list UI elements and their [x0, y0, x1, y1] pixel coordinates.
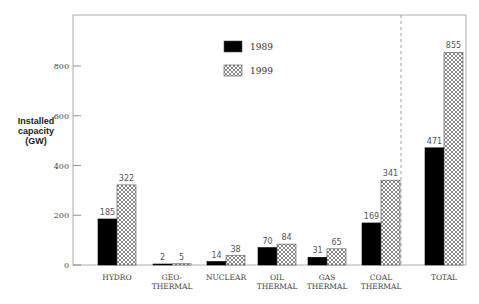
value-label: 185 [100, 208, 115, 217]
value-label: 855 [446, 41, 461, 50]
bar-1999 [117, 185, 136, 265]
value-label: 322 [119, 174, 134, 183]
bar-chart: 0200400600800 185322HYDRO25GEO-THERMAL14… [0, 0, 479, 304]
value-label: 471 [427, 137, 442, 146]
value-label: 84 [281, 233, 291, 242]
bar-1999 [226, 256, 245, 265]
value-label: 31 [312, 246, 322, 255]
legend: 19891999 [224, 41, 273, 76]
y-tick-label: 400 [54, 162, 69, 171]
x-category-label: GEO- [162, 273, 183, 282]
bar-1989 [98, 219, 117, 265]
x-category-label: THERMAL [152, 282, 193, 291]
bar-1989 [207, 262, 226, 265]
bar-1999 [277, 244, 296, 265]
bar-1999 [381, 180, 400, 265]
x-category-label: THERMAL [361, 282, 402, 291]
value-label: 70 [262, 237, 272, 246]
value-label: 169 [364, 212, 379, 221]
legend-swatch-1999 [224, 65, 242, 76]
legend-label: 1989 [250, 42, 273, 52]
bar-1989 [425, 148, 444, 265]
x-category-label: GAS [319, 273, 336, 282]
bar-1999 [327, 249, 346, 265]
y-tick-label: 0 [64, 261, 69, 270]
x-category-label: HYDRO [102, 273, 131, 282]
x-category-label: NUCLEAR [206, 273, 246, 282]
x-category-label: TOTAL [431, 273, 457, 282]
x-category-label: OIL [270, 273, 284, 282]
value-label: 5 [179, 253, 184, 262]
bar-1989 [308, 257, 327, 265]
bar-1989 [258, 248, 277, 265]
value-label: 14 [211, 251, 221, 260]
bar-1989 [153, 264, 172, 265]
x-category-label: THERMAL [257, 282, 298, 291]
bars: 185322HYDRO25GEO-THERMAL1438NUCLEAR7084O… [98, 41, 463, 291]
bar-1999 [172, 264, 191, 265]
bar-1999 [444, 52, 463, 265]
value-label: 341 [383, 169, 398, 178]
value-label: 38 [230, 245, 240, 254]
x-category-label: THERMAL [307, 282, 348, 291]
value-label: 65 [331, 238, 341, 247]
legend-label: 1999 [250, 66, 273, 76]
legend-swatch-1989 [224, 41, 242, 52]
y-tick-label: 600 [54, 112, 69, 121]
y-tick-label: 800 [54, 62, 69, 71]
y-tick-label: 200 [54, 211, 69, 220]
bar-1989 [362, 223, 381, 265]
value-label: 2 [160, 253, 165, 262]
x-category-label: COAL [370, 273, 392, 282]
y-axis: 0200400600800 [54, 62, 81, 270]
